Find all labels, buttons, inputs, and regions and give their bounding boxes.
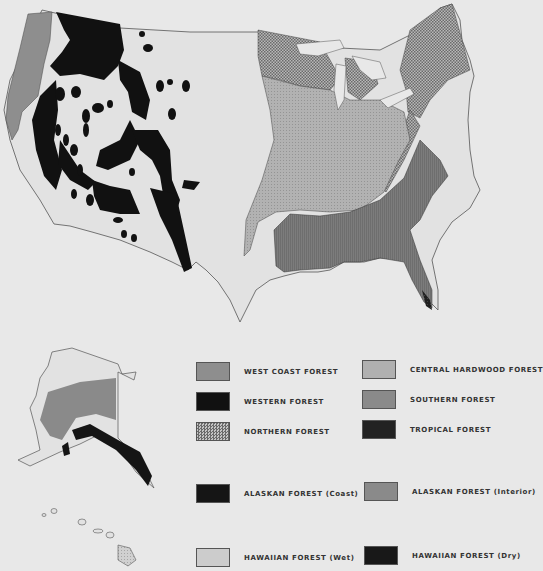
hawaiian-wet-swatch [196, 548, 230, 567]
legend-label: ALASKAN FOREST (Coast) [244, 490, 358, 498]
legend-item-central-hardwood: CENTRAL HARDWOOD FOREST [362, 360, 543, 379]
western-swatch [196, 392, 230, 411]
legend-label: WEST COAST FOREST [244, 368, 338, 376]
legend-label: SOUTHERN FOREST [410, 396, 496, 404]
legend-item-western: WESTERN FOREST [196, 392, 324, 411]
alaskan-coast-swatch [196, 484, 230, 503]
southern-swatch [362, 390, 396, 409]
hawaii [42, 509, 136, 567]
legend-item-southern: SOUTHERN FOREST [362, 390, 496, 409]
central-hardwood-swatch [362, 360, 396, 379]
legend-label: CENTRAL HARDWOOD FOREST [410, 366, 543, 374]
legend-item-alaskan-coast: ALASKAN FOREST (Coast) [196, 484, 358, 503]
legend-label: TROPICAL FOREST [410, 426, 491, 434]
tropical-swatch [362, 420, 396, 439]
alaska [18, 348, 154, 488]
northern-swatch [196, 422, 230, 441]
west-coast-swatch [196, 362, 230, 381]
hawaiian-dry-swatch [364, 546, 398, 565]
legend-item-hawaiian-dry: HAWAIIAN FOREST (Dry) [364, 546, 521, 565]
legend-label: WESTERN FOREST [244, 398, 324, 406]
legend-label: HAWAIIAN FOREST (Dry) [412, 552, 521, 560]
legend-label: ALASKAN FOREST (Interior) [412, 488, 536, 496]
legend-label: HAWAIIAN FOREST (Wet) [244, 554, 354, 562]
legend-item-northern: NORTHERN FOREST [196, 422, 330, 441]
legend-label: NORTHERN FOREST [244, 428, 330, 436]
alaskan-interior-swatch [364, 482, 398, 501]
legend-item-alaskan-interior: ALASKAN FOREST (Interior) [364, 482, 536, 501]
legend-item-hawaiian-wet: HAWAIIAN FOREST (Wet) [196, 548, 354, 567]
legend-item-tropical: TROPICAL FOREST [362, 420, 491, 439]
legend-item-west-coast: WEST COAST FOREST [196, 362, 338, 381]
